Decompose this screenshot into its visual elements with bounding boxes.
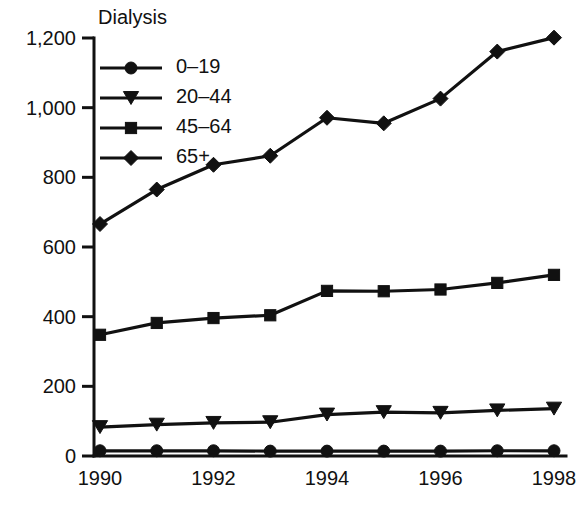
- data-point-circle: [491, 445, 503, 457]
- y-axis-ticks: 02004006008001,0001,200: [26, 27, 94, 467]
- data-point-square: [208, 312, 219, 323]
- data-point-square: [265, 310, 276, 321]
- data-point-circle: [208, 445, 220, 457]
- data-point-square: [94, 329, 105, 340]
- data-point-square: [151, 317, 162, 328]
- data-point-circle: [125, 62, 137, 74]
- chart-title: Dialysis: [98, 6, 167, 28]
- x-tick-label: 1992: [191, 467, 236, 489]
- series-45–64: [94, 269, 559, 340]
- x-tick-label: 1998: [532, 467, 577, 489]
- y-tick-label: 1,200: [26, 27, 76, 49]
- y-tick-label: 600: [43, 236, 76, 258]
- y-tick-label: 400: [43, 306, 76, 328]
- x-tick-label: 1994: [305, 467, 350, 489]
- data-point-square: [125, 122, 136, 133]
- data-point-square: [378, 286, 389, 297]
- data-point-circle: [94, 445, 106, 457]
- data-point-square: [492, 277, 503, 288]
- data-point-circle: [378, 445, 390, 457]
- data-point-diamond: [149, 182, 164, 197]
- data-point-circle: [548, 445, 560, 457]
- legend-item-45–64: 45–64: [100, 115, 232, 137]
- legend-label: 20–44: [176, 85, 232, 107]
- x-axis-ticks: 19901992199419961998: [78, 467, 577, 489]
- legend-item-20–44: 20–44: [100, 85, 232, 107]
- data-point-diamond: [376, 116, 391, 131]
- legend-label: 0–19: [176, 55, 221, 77]
- dialysis-line-chart: Dialysis 02004006008001,0001,200 1990199…: [0, 0, 582, 508]
- y-tick-label: 200: [43, 375, 76, 397]
- chart-legend: 0–1920–4445–6465+: [100, 55, 232, 167]
- y-tick-label: 0: [65, 445, 76, 467]
- data-point-circle: [321, 445, 333, 457]
- y-tick-label: 1,000: [26, 97, 76, 119]
- chart-canvas: Dialysis 02004006008001,0001,200 1990199…: [0, 0, 582, 508]
- data-point-circle: [151, 445, 163, 457]
- data-point-circle: [264, 445, 276, 457]
- series-polyline: [100, 38, 554, 224]
- data-series-group: [92, 30, 561, 457]
- series-65+: [93, 30, 562, 231]
- x-tick-label: 1990: [78, 467, 123, 489]
- data-point-square: [548, 269, 559, 280]
- legend-label: 65+: [176, 145, 210, 167]
- x-tick-label: 1996: [418, 467, 463, 489]
- legend-item-65+: 65+: [100, 145, 210, 167]
- legend-item-0–19: 0–19: [100, 55, 221, 77]
- y-tick-label: 800: [43, 166, 76, 188]
- data-point-diamond: [124, 151, 139, 166]
- data-point-circle: [435, 445, 447, 457]
- series-20–44: [92, 402, 561, 433]
- legend-label: 45–64: [176, 115, 232, 137]
- data-point-square: [435, 284, 446, 295]
- series-polyline: [100, 275, 554, 335]
- data-point-diamond: [547, 30, 562, 45]
- data-point-square: [321, 285, 332, 296]
